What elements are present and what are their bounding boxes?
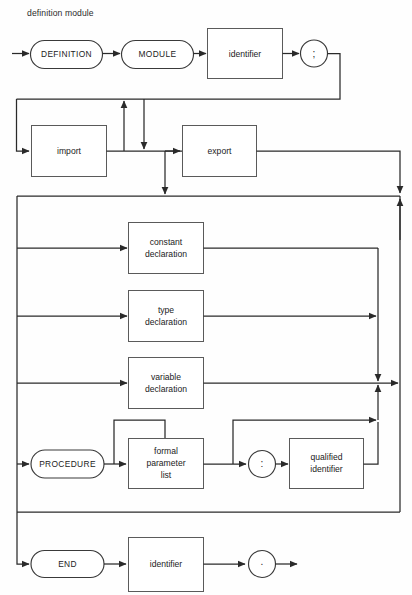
wire-qualified-identifier-out	[364, 422, 379, 464]
nonterminal-constant-declaration-label-2: declaration	[145, 249, 187, 259]
nonterminal-type-declaration-label-1: type	[158, 305, 174, 315]
terminal-colon-label: :	[261, 458, 264, 469]
wire-rail-to-end	[17, 512, 29, 564]
nonterminal-export-label: export	[208, 146, 232, 156]
terminal-end-label: END	[58, 559, 77, 569]
nonterminal-constant-declaration	[129, 223, 204, 274]
terminal-procedure-label: PROCEDURE	[39, 459, 96, 469]
nonterminal-type-declaration	[129, 291, 204, 342]
nonterminal-constant-declaration-label-1: constant	[150, 237, 183, 247]
nonterminal-type-declaration-label-2: declaration	[145, 317, 187, 327]
nonterminal-variable-declaration-label-2: declaration	[145, 384, 187, 394]
nonterminal-formal-parameter-list-label-1: formal	[154, 446, 178, 456]
terminal-definition-label: DEFINITION	[41, 49, 92, 59]
row-definition-header: DEFINITION MODULE identifier ;	[12, 29, 340, 100]
syntax-diagram-canvas: definition module DEFINITION MODULE iden…	[0, 0, 412, 595]
nonterminal-end-identifier-label: identifier	[150, 559, 183, 569]
terminal-semicolon-label: ;	[313, 48, 316, 59]
nonterminal-qualified-identifier-label-2: identifier	[310, 464, 343, 474]
nonterminal-module-identifier-label: identifier	[229, 49, 262, 59]
row-procedure: PROCEDURE formal parameter list : qualif…	[17, 420, 400, 512]
nonterminal-formal-parameter-list-label-2: parameter	[146, 458, 185, 468]
wire-export-to-declaration-bus	[257, 151, 401, 193]
terminal-module-label: MODULE	[139, 49, 177, 59]
nonterminal-variable-declaration	[129, 358, 204, 409]
nonterminal-qualified-identifier-label-1: qualified	[310, 452, 342, 462]
row-end: END identifier .	[17, 512, 297, 592]
row-import-export: import export	[17, 99, 401, 194]
nonterminal-import-label: import	[57, 146, 81, 156]
terminal-period-label: .	[261, 556, 264, 567]
wire-rail-left-to-import	[17, 99, 30, 151]
railroad-diagram-svg: DEFINITION MODULE identifier ; imp	[0, 0, 412, 595]
nonterminal-variable-declaration-label-1: variable	[151, 372, 181, 382]
nonterminal-formal-parameter-list-label-3: list	[161, 470, 172, 480]
